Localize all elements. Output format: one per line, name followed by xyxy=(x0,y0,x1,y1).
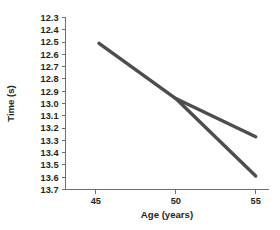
y-tick-label: 12.5 xyxy=(41,37,59,47)
y-tick-label: 13.2 xyxy=(41,123,59,133)
y-tick-label: 13.3 xyxy=(41,136,59,146)
y-tick-label: 12.9 xyxy=(41,87,59,97)
y-tick-label: 12.4 xyxy=(41,25,60,35)
line-chart: 12.312.412.512.612.712.812.913.013.113.2… xyxy=(0,0,280,230)
series-line-upper-branch xyxy=(99,43,256,136)
y-tick-label: 13.7 xyxy=(41,185,59,195)
y-tick-label: 12.7 xyxy=(41,62,59,72)
y-tick-label: 12.8 xyxy=(41,74,59,84)
x-tick-label: 50 xyxy=(171,196,181,206)
y-tick-label: 13.5 xyxy=(41,160,59,170)
x-axis-ticks: 455055 xyxy=(91,190,261,206)
y-tick-label: 13.6 xyxy=(41,173,59,183)
y-tick-label: 12.6 xyxy=(41,50,59,60)
x-axis-title: Age (years) xyxy=(141,209,193,220)
series-line-lower-branch xyxy=(176,99,256,176)
data-series-group xyxy=(99,43,256,176)
y-axis-ticks: 12.312.412.512.612.712.812.913.013.113.2… xyxy=(41,13,66,195)
y-tick-label: 13.4 xyxy=(41,148,60,158)
y-axis-title: Time (s) xyxy=(5,85,16,122)
chart-container: 12.312.412.512.612.712.812.913.013.113.2… xyxy=(0,0,280,230)
y-tick-label: 13.0 xyxy=(41,99,59,109)
x-tick-label: 55 xyxy=(251,196,261,206)
x-tick-label: 45 xyxy=(91,196,101,206)
y-tick-label: 13.1 xyxy=(41,111,59,121)
y-tick-label: 12.3 xyxy=(41,13,59,23)
